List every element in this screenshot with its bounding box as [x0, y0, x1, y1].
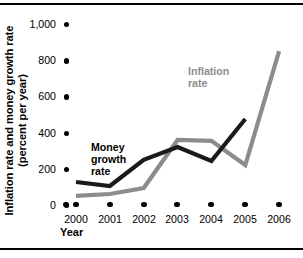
- x-tick-dot: [107, 202, 112, 207]
- x-tick-dot: [174, 202, 179, 207]
- chart-figure: Inflation rate and money growth rate (pe…: [0, 0, 303, 258]
- plot-area: Inflation rate and money growth rate (pe…: [0, 5, 303, 248]
- frame-rule-bottom: [0, 248, 303, 250]
- x-tick-dot: [73, 202, 78, 207]
- x-tick-label: 2006: [259, 213, 299, 225]
- series-label-inflation-rate: Inflation rate: [188, 65, 229, 89]
- series-label-line2: growth: [91, 153, 126, 165]
- series-label-line1: Inflation: [188, 65, 229, 77]
- series-label-money-growth-rate: Money growth rate: [91, 141, 126, 177]
- x-tick-dot: [276, 202, 281, 207]
- series-label-line3: rate: [91, 165, 110, 177]
- series-label-line1: Money: [91, 141, 125, 153]
- x-axis-title: Year: [60, 226, 83, 238]
- x-tick-dot: [208, 202, 213, 207]
- series-label-line2: rate: [188, 77, 207, 89]
- x-tick-dot: [141, 202, 146, 207]
- x-tick-dot: [242, 202, 247, 207]
